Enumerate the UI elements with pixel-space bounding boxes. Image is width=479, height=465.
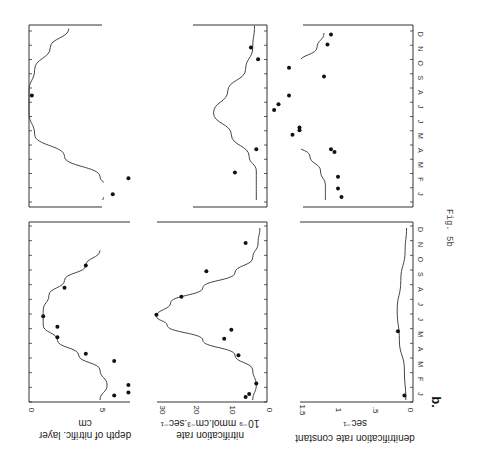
month-label: F <box>417 377 424 381</box>
data-point <box>396 329 400 333</box>
month-label: D <box>417 227 424 232</box>
data-point <box>249 46 253 50</box>
data-point <box>244 241 248 245</box>
data-point <box>55 325 59 329</box>
tick-label: .5 <box>371 407 380 414</box>
month-label: J <box>417 317 424 321</box>
month-label: S <box>417 272 424 277</box>
month-label: O <box>417 61 424 67</box>
depth-unit-label: cm <box>78 418 91 429</box>
panel-depth-year2 <box>29 25 130 207</box>
data-point <box>126 391 130 395</box>
month-label: O <box>417 257 424 263</box>
data-point <box>329 147 333 151</box>
data-point <box>336 186 340 190</box>
month-label: M <box>417 162 424 168</box>
data-point <box>154 313 158 317</box>
data-point <box>112 359 116 363</box>
tick-label: 30 <box>158 406 167 415</box>
data-point <box>247 392 251 396</box>
month-label: M <box>417 331 424 337</box>
data-point <box>233 170 237 174</box>
panel-nitrification-year1 <box>154 222 267 402</box>
data-point <box>179 295 183 299</box>
data-point <box>287 66 291 70</box>
tick-label: 20 <box>192 406 201 415</box>
data-point <box>272 108 276 112</box>
denitrification-unit-label: sec⁻¹ <box>342 418 367 429</box>
fitted-curve <box>156 228 259 400</box>
data-point <box>112 394 116 398</box>
nitrification-unit-label: 10⁻⁹ mmol.cm⁻³.sec⁻¹ <box>160 418 259 429</box>
fitted-curve <box>29 29 111 200</box>
panel-denitrification-year1 <box>300 222 413 402</box>
month-label: S <box>417 75 424 80</box>
tick-label: 1 <box>334 408 343 413</box>
month-label: J <box>417 120 424 124</box>
month-label: F <box>417 177 424 181</box>
data-point <box>298 125 302 129</box>
tick-label: 10 <box>228 406 237 415</box>
figure-5b: 0530201001.51.50cmdepth of nitrific. lay… <box>0 0 479 465</box>
fitted-curve <box>43 250 107 400</box>
data-point <box>111 192 115 196</box>
depth-axis-label: depth of nitrific. layer <box>38 430 131 441</box>
data-point <box>204 269 208 273</box>
tick-label: 0 <box>406 408 415 413</box>
data-point <box>287 93 291 97</box>
nitrification-axis-label: nitrification rate <box>176 430 244 441</box>
data-point <box>291 133 295 137</box>
data-point <box>254 382 258 386</box>
month-label: A <box>417 287 424 292</box>
denitrification-axis-label: denitrification rate constant <box>295 433 415 444</box>
month-label: A <box>417 90 424 95</box>
data-point <box>402 394 406 398</box>
month-label: D <box>417 32 424 37</box>
month-label: J <box>417 192 424 196</box>
data-point <box>333 150 337 154</box>
month-label: N <box>417 242 424 247</box>
fitted-curve <box>397 228 406 400</box>
data-point <box>84 263 88 267</box>
data-point <box>222 337 226 341</box>
data-point <box>229 328 233 332</box>
panel-depth-year1 <box>29 222 130 402</box>
data-point <box>277 102 281 106</box>
month-label: A <box>417 148 424 153</box>
panel-denitrification-year2 <box>263 25 413 207</box>
panel-letter-b: b. <box>429 396 444 408</box>
data-point <box>30 93 34 97</box>
data-point <box>322 75 326 79</box>
data-point <box>329 32 333 36</box>
tick-label: 1.5 <box>298 404 307 416</box>
tick-label: 0 <box>265 408 274 413</box>
month-label: J <box>417 303 424 307</box>
data-point <box>336 175 340 179</box>
data-point <box>256 57 260 61</box>
data-point <box>340 195 344 199</box>
month-label: M <box>417 361 424 367</box>
tick-label: 5 <box>98 408 107 413</box>
month-label: M <box>417 133 424 139</box>
month-label: A <box>417 347 424 352</box>
data-point <box>254 147 258 151</box>
data-point <box>236 353 240 357</box>
month-label: J <box>417 105 424 109</box>
tick-label: 0 <box>27 408 36 413</box>
figure-caption: Fig. 5b <box>444 209 454 247</box>
fitted-curve <box>263 33 325 200</box>
month-label: J <box>417 392 424 396</box>
data-point <box>126 176 130 180</box>
data-point <box>244 395 248 399</box>
data-point <box>63 286 67 290</box>
data-point <box>126 383 130 387</box>
panel-nitrification-year2 <box>193 25 276 207</box>
data-point <box>41 314 45 318</box>
data-point <box>55 335 59 339</box>
data-point <box>84 352 88 356</box>
data-point <box>326 43 330 47</box>
month-label: N <box>417 46 424 51</box>
